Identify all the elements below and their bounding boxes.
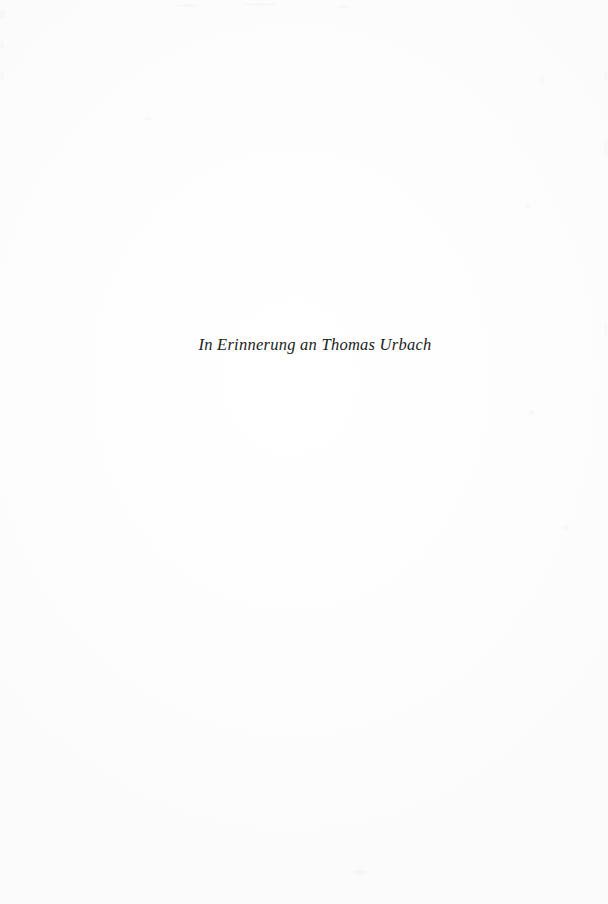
scan-artifact [604,140,608,156]
dedication-text: In Erinnerung an Thomas Urbach [199,335,432,355]
scan-artifact [176,4,198,7]
scan-artifact [563,525,568,531]
scan-artifact [338,5,348,8]
scan-artifact [529,410,534,415]
scan-artifact [244,3,278,6]
scan-artifact [525,204,530,209]
scan-artifact [353,870,367,875]
scan-artifact [0,10,5,19]
scan-artifact [0,72,4,80]
dedication-block: In Erinnerung an Thomas Urbach [0,335,608,355]
scan-artifact [0,41,4,49]
scan-artifact [540,76,545,83]
paper-background [0,0,608,904]
scan-artifact [604,70,608,82]
scan-artifact [144,117,152,120]
scan-artifact [604,322,608,336]
scanned-page: In Erinnerung an Thomas Urbach [0,0,608,904]
